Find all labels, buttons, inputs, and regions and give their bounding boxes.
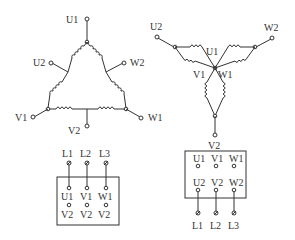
svg-text:V2: V2 [61,209,73,220]
label-v1: V1 [193,69,205,80]
star-terminal-box: U1 V1 W1 U2 V2 W2 L1 L2 L3 [185,151,246,231]
label-l2: L2 [210,220,221,231]
label-l1: L1 [192,220,203,231]
svg-text:V2: V2 [80,209,92,220]
label-v1: V1 [15,112,27,123]
svg-text:U2: U2 [193,177,205,188]
label-w2: W2 [264,22,278,33]
label-u1: U1 [66,14,78,25]
svg-text:U1: U1 [193,153,205,164]
motor-wiring-diagram: U1 U2 W2 V1 V2 W1 L1 L2 L3 U1 V1 W1 V2 V… [0,0,295,240]
label-v2: V2 [208,140,220,151]
terminal-v1 [31,115,35,119]
label-w2: W2 [130,57,144,68]
terminal-w1 [139,116,143,120]
label-l3: L3 [99,148,110,159]
svg-text:V1: V1 [80,191,92,202]
svg-text:V1: V1 [211,153,223,164]
label-l3: L3 [228,220,239,231]
terminal-u2 [49,61,53,65]
svg-text:W2: W2 [229,177,243,188]
svg-text:W1: W1 [98,191,112,202]
label-v2: V2 [68,125,80,136]
label-w1: W1 [218,69,232,80]
star-diagram: U2 W2 U1 V1 W1 V2 [150,21,278,151]
svg-text:V2: V2 [98,209,110,220]
terminal-v2 [85,124,89,128]
terminal-u1 [85,17,89,21]
svg-text:U1: U1 [61,191,73,202]
label-u2: U2 [150,21,162,32]
terminal-v2 [213,133,217,137]
label-l1: L1 [62,148,73,159]
label-u1: U1 [206,46,218,57]
label-u2: U2 [33,57,45,68]
delta-terminal-box: L1 L2 L3 U1 V1 W1 V2 V2 V2 [57,148,119,225]
svg-text:W1: W1 [229,153,243,164]
terminal-w2 [122,61,126,65]
delta-diagram: U1 U2 W2 V1 V2 W1 [15,14,162,136]
svg-text:V2: V2 [211,177,223,188]
label-w1: W1 [148,112,162,123]
label-l2: L2 [80,148,91,159]
